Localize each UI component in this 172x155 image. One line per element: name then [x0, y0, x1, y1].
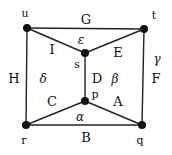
edge-F: [142, 29, 144, 125]
edge-label-E: E: [113, 45, 123, 60]
node-q: [138, 121, 146, 129]
edge-label-H: H: [8, 71, 19, 86]
edge-label-F: F: [151, 71, 160, 86]
edge-label-G: G: [81, 12, 91, 27]
face-label: ε: [78, 33, 84, 47]
edge-label-I: I: [49, 42, 54, 57]
edge-H: [26, 28, 27, 125]
face-label: β: [111, 72, 119, 86]
face-label: δ: [39, 72, 46, 86]
node-label-s: s: [74, 58, 80, 71]
node-t: [140, 25, 148, 33]
node-label-u: u: [21, 7, 28, 20]
edge-label-B: B: [81, 130, 91, 145]
edge-label-A: A: [112, 94, 123, 109]
node-s: [81, 49, 89, 57]
node-label-t: t: [152, 9, 157, 22]
face-label: α: [76, 110, 84, 124]
node-r: [22, 121, 30, 129]
edge-label-C: C: [47, 94, 57, 109]
node-label-q: q: [136, 134, 143, 147]
face-label: γ: [153, 52, 161, 66]
edge-I: [27, 28, 85, 53]
planar-graph-diagram: GIEHDFCAButsprqεγδβα: [0, 0, 172, 155]
edge-G: [27, 28, 144, 29]
node-u: [23, 24, 31, 32]
node-p: [81, 97, 89, 105]
node-label-p: p: [91, 88, 98, 101]
edge-label-D: D: [92, 71, 102, 86]
node-label-r: r: [21, 134, 27, 147]
